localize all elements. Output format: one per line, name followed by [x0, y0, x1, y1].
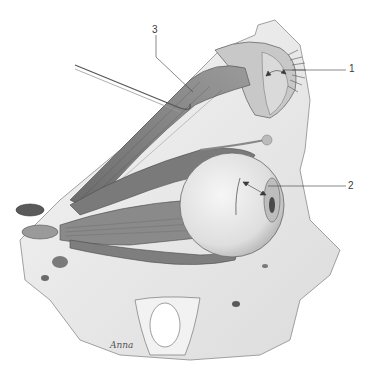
infraorbital-foramen — [232, 301, 240, 307]
label-2: 2 — [348, 181, 354, 191]
label-3: 3 — [152, 25, 158, 35]
label-1: 1 — [349, 64, 355, 74]
pupil — [269, 197, 275, 213]
probe-instrument — [75, 65, 190, 112]
sinus-cavity — [150, 303, 180, 347]
zygomatic-foramen — [262, 264, 268, 268]
optic-canal — [16, 204, 44, 216]
trochlea — [262, 135, 272, 145]
anatomy-figure — [0, 0, 371, 369]
artist-signature: Anna — [110, 340, 133, 350]
bone-foramen — [52, 256, 68, 268]
bone-foramen-small — [41, 275, 49, 281]
annular-tendon — [22, 225, 58, 239]
